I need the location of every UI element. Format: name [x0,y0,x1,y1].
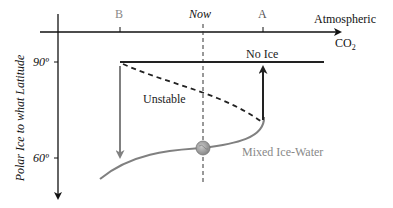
tick-label-90: 90º [33,56,49,68]
hysteresis-diagram [0,0,393,208]
tick-label-a: A [258,8,267,20]
globe-icon [196,141,210,155]
tick-label-b: B [115,8,123,20]
mixed-label: Mixed Ice-Water [242,146,323,158]
mixed-branch [100,117,264,179]
no-ice-label: No Ice [246,48,278,60]
y-axis-label: Polar Ice to what Latitude [14,55,26,182]
tick-label-60: 60º [33,152,49,164]
unstable-label: Unstable [143,93,186,105]
x-axis-label: Atmospheric [314,13,376,25]
tick-label-now: Now [189,8,211,20]
x-axis-label-co2: CO2 [335,37,356,52]
